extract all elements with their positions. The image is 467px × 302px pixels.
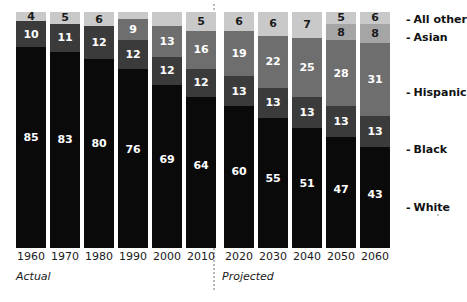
bar-segment-2030-hispanic: 22 xyxy=(258,36,288,88)
bar-segment-2030-all-other: 6 xyxy=(258,12,288,36)
segment-value-label: 22 xyxy=(266,56,281,67)
segment-value-label: 51 xyxy=(300,178,315,189)
segment-value-label: 6 xyxy=(269,18,276,29)
bar-segment-2000-black: 12 xyxy=(152,57,182,85)
bar-segment-1990-white: 76 xyxy=(118,69,148,248)
bar-segment-2020-black: 13 xyxy=(224,76,254,107)
bar-segment-2060-black: 13 xyxy=(360,116,390,147)
bar-segment-2040-white: 51 xyxy=(292,128,322,248)
plot-area: 4108551183612809127613126951612646191360… xyxy=(0,0,453,248)
bar-segment-2020-hispanic: 19 xyxy=(224,31,254,76)
legend-dash-icon: - xyxy=(406,202,411,213)
bar-segment-1970-black: 11 xyxy=(50,24,80,52)
legend-item-asian: -Asian xyxy=(406,32,448,43)
bar-1980: 61280 xyxy=(84,12,114,248)
segment-value-label: 47 xyxy=(334,184,349,195)
bar-2030: 6221355 xyxy=(258,12,288,248)
legend-label: Asian xyxy=(414,31,448,44)
segment-value-label: 11 xyxy=(58,32,73,43)
bar-1970: 51183 xyxy=(50,12,80,248)
segment-value-label: 13 xyxy=(300,107,315,118)
segment-value-label: 10 xyxy=(24,29,39,40)
bar-segment-2000-hispanic: 13 xyxy=(152,26,182,57)
bar-2060: 68311343 xyxy=(360,12,390,248)
bar-segment-2060-hispanic: 31 xyxy=(360,43,390,116)
bar-segment-2040-all-other: 7 xyxy=(292,12,322,38)
segment-value-label: 6 xyxy=(371,12,378,23)
segment-value-label: 19 xyxy=(232,48,247,59)
bar-segment-2040-hispanic: 25 xyxy=(292,38,322,97)
bar-segment-2020-all-other: 6 xyxy=(224,12,254,31)
period-label-projected: Projected xyxy=(222,270,274,283)
segment-value-label: 13 xyxy=(266,97,281,108)
segment-value-label: 16 xyxy=(194,44,209,55)
legend-item-all-other: -All other xyxy=(406,14,467,25)
bar-segment-1960-all-other: 4 xyxy=(16,12,46,21)
segment-value-label: 83 xyxy=(58,134,73,145)
segment-value-label: 80 xyxy=(92,138,107,149)
segment-value-label: 43 xyxy=(368,189,383,200)
segment-value-label: 5 xyxy=(337,12,344,23)
legend-label: Hispanic xyxy=(414,86,467,99)
legend-item-black: -Black xyxy=(406,144,447,155)
bar-2000: 131269 xyxy=(152,12,182,248)
bar-segment-1970-all-other: 5 xyxy=(50,12,80,24)
bar-segment-2050-black: 13 xyxy=(326,106,356,137)
segment-value-label: 5 xyxy=(197,16,204,27)
segment-value-label: 6 xyxy=(95,14,102,25)
stray-artifact-dot xyxy=(437,214,439,216)
legend-item-white: -White xyxy=(406,202,450,213)
segment-value-label: 85 xyxy=(24,132,39,143)
x-axis-tick-labels: 1960197019801990200020102020203020402050… xyxy=(0,250,453,268)
legend-dash-icon: - xyxy=(406,32,411,43)
segment-value-label: 69 xyxy=(160,154,175,165)
legend-label: White xyxy=(414,201,450,214)
bar-segment-2000-white: 69 xyxy=(152,85,182,248)
bar-segment-1980-all-other: 6 xyxy=(84,12,114,26)
bar-segment-1990-hispanic: 9 xyxy=(118,19,148,40)
bar-segment-2040-black: 13 xyxy=(292,97,322,128)
segment-value-label: 8 xyxy=(371,28,378,39)
bar-segment-1980-black: 12 xyxy=(84,26,114,59)
legend-dash-icon: - xyxy=(406,14,411,25)
segment-value-label: 28 xyxy=(334,68,349,79)
bar-segment-1990-all-other xyxy=(118,12,148,19)
legend-dash-icon: - xyxy=(406,87,411,98)
bar-1990: 91276 xyxy=(118,12,148,248)
legend-dash-icon: - xyxy=(406,144,411,155)
segment-value-label: 5 xyxy=(61,12,68,23)
bar-segment-2010-white: 64 xyxy=(186,97,216,248)
bar-segment-2050-white: 47 xyxy=(326,137,356,248)
segment-value-label: 12 xyxy=(194,77,209,88)
segment-value-label: 12 xyxy=(160,65,175,76)
segment-value-label: 76 xyxy=(126,144,141,155)
segment-value-label: 13 xyxy=(232,86,247,97)
legend-label: All other xyxy=(414,13,467,26)
segment-value-label: 13 xyxy=(368,126,383,137)
bar-2020: 6191360 xyxy=(224,12,254,248)
bar-segment-2020-white: 60 xyxy=(224,106,254,248)
bar-segment-2030-white: 55 xyxy=(258,118,288,248)
segment-value-label: 13 xyxy=(160,36,175,47)
segment-value-label: 13 xyxy=(334,116,349,127)
segment-value-label: 31 xyxy=(368,74,383,85)
bar-segment-2050-all-other: 5 xyxy=(326,12,356,24)
bar-segment-1970-white: 83 xyxy=(50,52,80,248)
bar-segment-2060-asian: 8 xyxy=(360,24,390,43)
legend-item-hispanic: -Hispanic xyxy=(406,87,467,98)
bar-segment-1990-black: 12 xyxy=(118,40,148,68)
bar-segment-1980-white: 80 xyxy=(84,59,114,248)
bar-segment-2000-all-other xyxy=(152,12,182,26)
bar-segment-2060-white: 43 xyxy=(360,147,390,248)
segment-value-label: 55 xyxy=(266,173,281,184)
segment-value-label: 12 xyxy=(92,37,107,48)
bar-segment-2060-all-other: 6 xyxy=(360,12,390,24)
segment-value-label: 7 xyxy=(303,19,310,30)
segment-value-label: 64 xyxy=(194,160,209,171)
bar-segment-2050-asian: 8 xyxy=(326,24,356,41)
legend-label: Black xyxy=(414,143,447,156)
bar-1960: 41085 xyxy=(16,12,46,248)
bar-segment-2050-hispanic: 28 xyxy=(326,40,356,106)
segment-value-label: 9 xyxy=(129,24,136,35)
segment-value-label: 6 xyxy=(235,16,242,27)
